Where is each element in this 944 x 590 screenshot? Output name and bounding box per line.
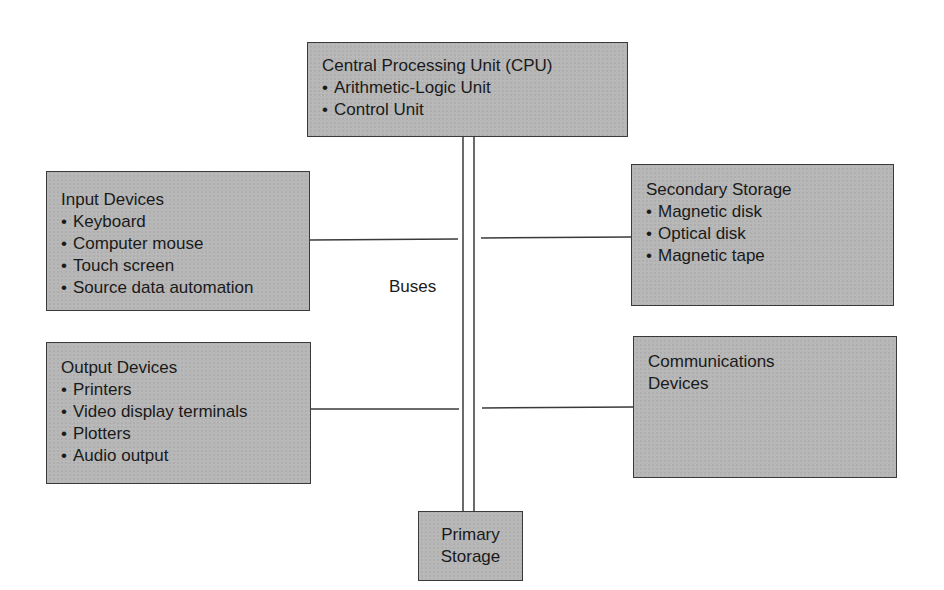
output-devices-items: Printers Video display terminals Plotter… — [61, 379, 296, 467]
secondary-storage-item: Magnetic tape — [646, 245, 879, 267]
primary-storage-box: Primary Storage — [418, 511, 523, 581]
input-device-item: Computer mouse — [61, 233, 295, 255]
output-device-item: Plotters — [61, 423, 296, 445]
input-device-item: Keyboard — [61, 211, 295, 233]
secondary-storage-items: Magnetic disk Optical disk Magnetic tape — [646, 201, 879, 267]
secondary-storage-title: Secondary Storage — [646, 179, 879, 201]
input-device-item: Touch screen — [61, 255, 295, 277]
communications-connector — [482, 407, 633, 408]
output-device-item: Audio output — [61, 445, 296, 467]
communications-title-line2: Devices — [648, 373, 882, 395]
cpu-item: Control Unit — [322, 99, 613, 121]
cpu-items: Arithmetic-Logic Unit Control Unit — [322, 77, 613, 121]
secondary-storage-box: Secondary Storage Magnetic disk Optical … — [631, 164, 894, 306]
output-devices-title: Output Devices — [61, 357, 296, 379]
communications-title-line1: Communications — [648, 351, 882, 373]
input-device-item: Source data automation — [61, 277, 295, 299]
primary-storage-title-line2: Storage — [423, 546, 518, 568]
secondary-connector — [481, 237, 631, 238]
cpu-item: Arithmetic-Logic Unit — [322, 77, 613, 99]
input-connector — [310, 239, 458, 240]
input-devices-title: Input Devices — [61, 189, 295, 211]
cpu-box: Central Processing Unit (CPU) Arithmetic… — [307, 42, 628, 137]
primary-storage-title-line1: Primary — [423, 524, 518, 546]
cpu-title: Central Processing Unit (CPU) — [322, 55, 613, 77]
secondary-storage-item: Magnetic disk — [646, 201, 879, 223]
secondary-storage-item: Optical disk — [646, 223, 879, 245]
output-devices-box: Output Devices Printers Video display te… — [46, 342, 311, 484]
input-devices-box: Input Devices Keyboard Computer mouse To… — [46, 171, 310, 311]
output-device-item: Video display terminals — [61, 401, 296, 423]
communications-devices-box: Communications Devices — [633, 336, 897, 478]
output-device-item: Printers — [61, 379, 296, 401]
buses-label: Buses — [389, 276, 436, 298]
input-devices-items: Keyboard Computer mouse Touch screen Sou… — [61, 211, 295, 299]
